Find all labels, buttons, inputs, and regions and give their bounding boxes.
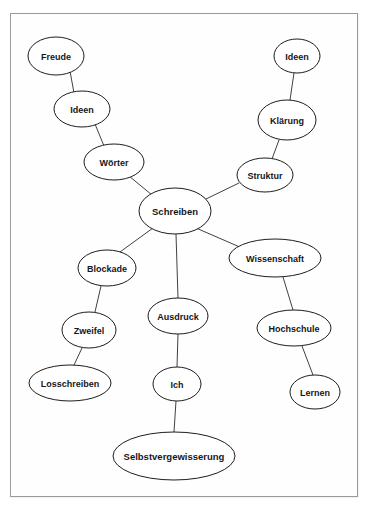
edge-wissenschaft-to-hochschule — [283, 277, 293, 310]
edge-blockade-to-zweifel — [95, 286, 101, 312]
node-selbst[interactable]: Selbstvergewisserung — [113, 432, 235, 480]
node-label-klaerung: Klärung — [270, 116, 304, 126]
node-layer: FreudeIdeenWörterSchreibenIdeenKlärungSt… — [28, 37, 340, 480]
edge-ideen_right-to-klaerung — [290, 73, 294, 100]
node-woerter[interactable]: Wörter — [84, 144, 144, 180]
node-losschreiben[interactable]: Losschreiben — [29, 365, 111, 401]
node-ideen_left[interactable]: Ideen — [54, 91, 110, 127]
node-label-lernen: Lernen — [300, 388, 330, 398]
node-freude[interactable]: Freude — [28, 37, 84, 75]
node-struktur[interactable]: Struktur — [237, 158, 293, 192]
node-label-woerter: Wörter — [100, 158, 129, 168]
node-label-schreiben: Schreiben — [152, 206, 198, 217]
edge-hochschule-to-lernen — [302, 346, 313, 375]
node-label-selbst: Selbstvergewisserung — [124, 451, 225, 462]
edge-schreiben-to-wissenschaft — [196, 228, 242, 248]
node-label-ideen_right: Ideen — [285, 52, 309, 62]
node-label-zweifel: Zweifel — [74, 326, 105, 336]
edge-woerter-to-schreiben — [129, 176, 152, 195]
edge-struktur-to-schreiben — [206, 183, 239, 199]
edge-schreiben-to-blockade — [120, 228, 153, 252]
node-lernen[interactable]: Lernen — [290, 375, 340, 409]
edge-ich-to-selbst — [174, 401, 176, 432]
node-schreiben[interactable]: Schreiben — [139, 188, 211, 234]
mindmap-canvas: FreudeIdeenWörterSchreibenIdeenKlärungSt… — [0, 0, 366, 512]
node-label-hochschule: Hochschule — [268, 324, 319, 334]
edge-ausdruck-to-ich — [177, 334, 178, 367]
node-label-ideen_left: Ideen — [70, 105, 94, 115]
node-label-losschreiben: Losschreiben — [41, 379, 100, 389]
node-ich[interactable]: Ich — [153, 367, 201, 401]
node-label-ausdruck: Ausdruck — [157, 312, 200, 322]
node-ausdruck[interactable]: Ausdruck — [148, 298, 208, 334]
node-klaerung[interactable]: Klärung — [258, 100, 316, 140]
node-blockade[interactable]: Blockade — [78, 250, 136, 286]
edge-freude-to-ideen_left — [70, 71, 74, 93]
node-zweifel[interactable]: Zweifel — [62, 312, 116, 348]
node-wissenschaft[interactable]: Wissenschaft — [229, 239, 321, 277]
edge-schreiben-to-ausdruck — [176, 234, 178, 298]
mindmap-page: FreudeIdeenWörterSchreibenIdeenKlärungSt… — [0, 0, 366, 512]
node-hochschule[interactable]: Hochschule — [257, 310, 331, 346]
node-ideen_right[interactable]: Ideen — [274, 39, 320, 73]
node-label-freude: Freude — [41, 52, 71, 62]
node-label-wissenschaft: Wissenschaft — [246, 254, 304, 264]
node-label-ich: Ich — [170, 380, 183, 390]
edge-ideen_left-to-woerter — [95, 124, 104, 146]
edge-zweifel-to-losschreiben — [74, 348, 82, 365]
edge-klaerung-to-struktur — [272, 140, 279, 159]
node-label-struktur: Struktur — [247, 171, 283, 181]
node-label-blockade: Blockade — [87, 264, 127, 274]
